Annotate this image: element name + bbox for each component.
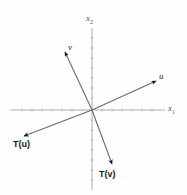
- axis-ticks-group: [22, 38, 152, 180]
- diagram-canvas: [0, 0, 187, 195]
- x1-axis-label: x1: [168, 104, 175, 115]
- vector-label-tv: T(v): [99, 170, 116, 179]
- x1-axis-label-subscript: 1: [172, 109, 175, 115]
- vector-v-arrow: [65, 52, 92, 110]
- linear-transformation-diagram: x1 x2 v u T(u) T(v): [0, 0, 187, 195]
- x2-axis-label-subscript: 2: [90, 19, 93, 25]
- vector-label-tu: T(u): [13, 140, 30, 149]
- vector-u-arrow: [92, 81, 156, 110]
- vector-tu-arrow: [24, 110, 92, 136]
- vector-label-u: u: [159, 72, 164, 81]
- x2-axis-label: x2: [86, 14, 93, 25]
- vector-tv-arrow: [92, 110, 112, 164]
- vector-label-v: v: [68, 43, 72, 52]
